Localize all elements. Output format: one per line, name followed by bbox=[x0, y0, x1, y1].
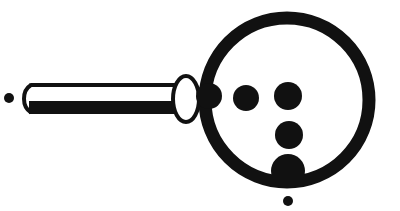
ferrule-ellipse bbox=[173, 76, 199, 122]
figure-canvas: Magnifying glass with dots Black-and-whi… bbox=[0, 0, 400, 211]
dot-lens-middle-row bbox=[275, 121, 303, 149]
dot-lens-left bbox=[196, 83, 222, 109]
stray-dot-left bbox=[4, 93, 14, 103]
stray-dot-bottom bbox=[283, 196, 293, 206]
dot-lens-right bbox=[274, 82, 302, 110]
magnifying-glass-illustration bbox=[0, 0, 400, 211]
dot-lens-center bbox=[233, 85, 259, 111]
handle-group bbox=[23, 83, 188, 114]
dot-lens-bottom bbox=[271, 154, 305, 188]
